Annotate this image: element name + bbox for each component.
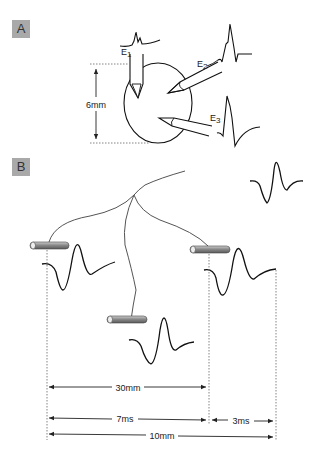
electrode-middle — [107, 316, 194, 364]
dimension-3ms: 3ms — [212, 416, 273, 426]
nerve-fibers — [49, 171, 208, 320]
e3-label: E3 — [210, 113, 221, 125]
distance-label-30mm: 30mm — [115, 383, 140, 393]
diagram-canvas: 6mm E1 E2 E3 — [0, 0, 316, 458]
dimension-30mm: 30mm — [49, 383, 206, 393]
electrode-right — [190, 246, 276, 295]
panel-b-diagram: 30mm 7ms 3ms 10mm — [30, 162, 303, 441]
waveform-e3 — [217, 96, 260, 146]
panel-a-diagram: 6mm E1 E2 E3 — [84, 24, 260, 146]
dimension-7ms: 7ms — [49, 414, 206, 424]
diameter-label: 6mm — [86, 100, 106, 110]
electrode-e2: E2 — [168, 24, 252, 93]
reference-waveform — [250, 162, 303, 203]
time-label-7ms: 7ms — [116, 414, 134, 424]
electrode-left — [30, 242, 115, 290]
e1-label: E1 — [121, 47, 132, 59]
time-label-3ms: 3ms — [232, 416, 250, 426]
waveform-left — [42, 245, 115, 290]
waveform-e1 — [120, 32, 160, 46]
distance-label-10mm: 10mm — [149, 431, 174, 441]
waveform-right — [204, 248, 276, 295]
waveform-middle — [129, 318, 194, 364]
waveform-e2 — [218, 24, 252, 62]
dimension-10mm: 10mm — [49, 431, 273, 441]
e2-label: E2 — [197, 59, 208, 71]
